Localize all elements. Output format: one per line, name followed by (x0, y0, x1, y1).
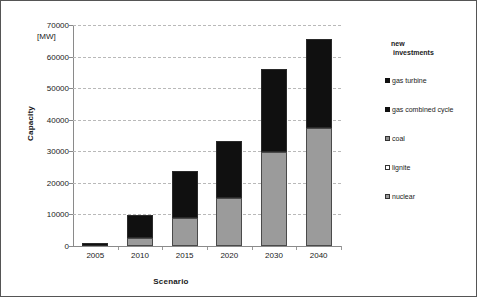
y-axis-tick-mark (69, 57, 73, 58)
y-axis-tick-label: 30000 (27, 147, 69, 156)
bar-2010[interactable] (127, 25, 153, 246)
chart-figure: Capacity [MW] Scenario 01000020000300004… (0, 0, 477, 297)
legend-swatch-icon (385, 136, 390, 141)
y-axis-tick-label: 40000 (27, 115, 69, 124)
y-axis-tick-label: 10000 (27, 210, 69, 219)
legend-title: newinvestments (391, 39, 477, 58)
gridline (73, 183, 341, 184)
bar-segment-nuclear[interactable] (216, 198, 242, 246)
y-axis-tick-label: 60000 (27, 52, 69, 61)
legend-item-coal[interactable]: coal (385, 135, 405, 142)
legend-swatch-icon (385, 107, 390, 112)
gridline (73, 57, 341, 58)
y-axis-tick-mark (69, 151, 73, 152)
bar-2030[interactable] (261, 25, 287, 246)
bar-segment-nuclear[interactable] (261, 152, 287, 246)
y-axis-tick-mark (69, 120, 73, 121)
bar-segment-gas-turbine[interactable] (261, 69, 287, 152)
bar-segment-nuclear[interactable] (172, 218, 198, 246)
legend-swatch-icon (385, 78, 390, 83)
gridline (73, 88, 341, 89)
y-axis-tick-label: 70000 (27, 21, 69, 30)
y-axis-tick-label: 50000 (27, 84, 69, 93)
x-axis-title: Scenario (1, 277, 341, 286)
bar-2040[interactable] (306, 25, 332, 246)
bar-2005[interactable] (82, 25, 108, 246)
x-axis-tick-label: 2040 (291, 251, 347, 260)
legend-title-line-1: new (391, 39, 477, 48)
legend-item-nuclear[interactable]: nuclear (385, 193, 415, 200)
legend-title-line-2: investments (393, 48, 477, 57)
y-axis-tick-labels: 010000200003000040000500006000070000 (1, 25, 69, 246)
legend-label: coal (392, 135, 405, 142)
legend-swatch-icon (385, 165, 390, 170)
bar-segment-gas-turbine[interactable] (306, 39, 332, 128)
legend-label: nuclear (392, 193, 415, 200)
bar-segment-gas-turbine[interactable] (172, 171, 198, 218)
plot-area (73, 25, 341, 246)
gridline (73, 120, 341, 121)
y-axis-tick-mark (69, 25, 73, 26)
bar-2020[interactable] (216, 25, 242, 246)
bar-segment-nuclear[interactable] (127, 238, 153, 246)
x-axis-line (73, 246, 341, 247)
y-axis-tick-label: 0 (27, 242, 69, 251)
legend-item-gas-combined-cycle[interactable]: gas combined cycle (385, 106, 453, 113)
legend-item-lignite[interactable]: lignite (385, 164, 410, 171)
gridline (73, 25, 341, 26)
y-axis-tick-mark (69, 214, 73, 215)
x-axis-tick-mark (341, 246, 342, 250)
bar-segment-nuclear[interactable] (306, 128, 332, 246)
y-axis-tick-mark (69, 183, 73, 184)
y-axis-tick-mark (69, 88, 73, 89)
bar-2015[interactable] (172, 25, 198, 246)
bar-segment-gas-turbine[interactable] (127, 215, 153, 238)
gridline (73, 151, 341, 152)
y-axis-tick-label: 20000 (27, 178, 69, 187)
legend-swatch-icon (385, 194, 390, 199)
legend-label: gas turbine (392, 77, 427, 84)
gridline (73, 214, 341, 215)
legend-label: gas combined cycle (392, 106, 453, 113)
legend-item-gas-turbine[interactable]: gas turbine (385, 77, 427, 84)
bar-segment-gas-turbine[interactable] (216, 141, 242, 197)
legend-label: lignite (392, 164, 410, 171)
